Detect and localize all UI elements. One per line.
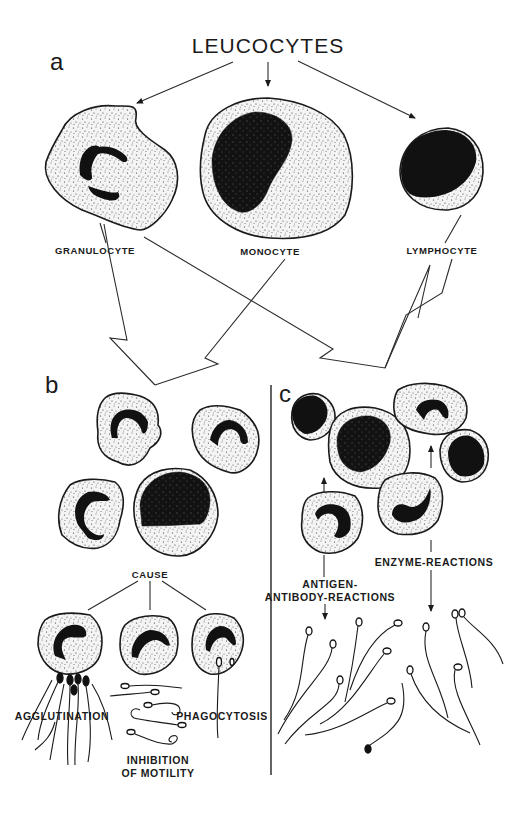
monocyte-label: MONOCYTE xyxy=(240,246,300,257)
panel-c: c ANTIGEN- ANTIBODY-REACTIONS xyxy=(265,380,503,753)
inhibition-label-line1: INHIBITION xyxy=(127,754,190,766)
lymphocyte-pointer xyxy=(445,215,461,243)
inhibition-cell xyxy=(120,616,178,674)
leucocytes-diagram: LEUCOCYTES a GRANULOCYTE MONOCYTE LYMPHO… xyxy=(0,0,524,813)
granulocyte-label: GRANULOCYTE xyxy=(55,245,135,256)
diagram-title: LEUCOCYTES xyxy=(192,34,344,57)
monocyte-cell-b xyxy=(134,469,218,557)
monocyte-connector xyxy=(155,259,285,385)
arrow-to-granulocyte xyxy=(137,62,233,103)
cause-line-left xyxy=(88,581,138,610)
granulocyte-cell-c3 xyxy=(378,473,443,535)
lymphocyte-cell-c1 xyxy=(292,394,335,440)
granulocyte-cell xyxy=(45,106,177,230)
immobile-sperm xyxy=(110,684,186,745)
monocyte-cell xyxy=(200,98,352,238)
panel-b: b CAUSE xyxy=(15,371,268,779)
agglutination-label: AGGLUTINATION xyxy=(15,710,110,722)
cause-line-right xyxy=(162,581,206,610)
panel-a: LEUCOCYTES a GRANULOCYTE MONOCYTE LYMPHO… xyxy=(45,34,483,385)
motile-sperm xyxy=(278,609,503,753)
lymphocyte-cell xyxy=(400,128,483,210)
enzyme-label: ENZYME-REACTIONS xyxy=(375,556,494,568)
antigen-label-line1: ANTIGEN- xyxy=(302,578,358,590)
granulocyte-cell-b2 xyxy=(192,406,259,473)
lymphocyte-cell-c2 xyxy=(440,430,488,482)
panel-b-letter: b xyxy=(45,371,58,398)
granulocyte-cell-c1 xyxy=(394,383,467,434)
phagocytosis-label: PHAGOCYTOSIS xyxy=(176,710,268,722)
granulocyte-cell-c2 xyxy=(302,492,363,554)
inhibition-label-line2: OF MOTILITY xyxy=(121,767,194,779)
panel-a-letter: a xyxy=(50,48,64,75)
antigen-label-line2: ANTIBODY-REACTIONS xyxy=(265,591,395,603)
lymphocyte-label: LYMPHOCYTE xyxy=(406,245,477,256)
agglutination-cell xyxy=(22,613,112,765)
granulocyte-cell-b1 xyxy=(97,393,161,465)
cause-label: CAUSE xyxy=(132,569,168,580)
granulocyte-cell-b3 xyxy=(59,479,124,548)
panel-c-letter: c xyxy=(279,380,291,407)
